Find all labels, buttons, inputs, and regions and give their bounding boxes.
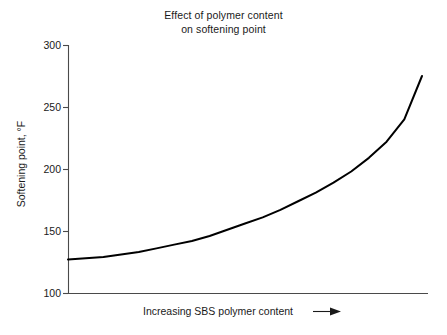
plot-area: [0, 0, 447, 335]
axis-spines: [68, 45, 428, 294]
data-series-softening-point: [68, 76, 422, 260]
chart-figure: Effect of polymer content on softening p…: [0, 0, 447, 335]
y-axis-ticks: [63, 46, 68, 294]
softening-point-curve: [68, 76, 422, 260]
x-axis-label: Increasing SBS polymer content: [68, 305, 368, 317]
